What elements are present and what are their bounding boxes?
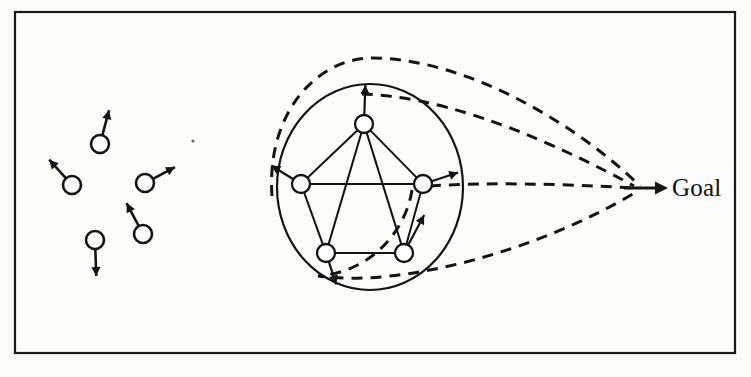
formation-control-figure: Goal [0,0,751,377]
speck-group [191,139,194,142]
node-right-body [414,175,432,193]
agent-5-body [86,231,104,249]
outer-border [15,12,735,353]
node-left-body [292,175,310,193]
goal-label: Goal [672,174,721,202]
dust-speck [191,139,194,142]
figure-canvas [0,0,751,377]
agent-4-body [134,225,152,243]
node-bottom-left-body [317,244,335,262]
node-bottom-right-body [395,244,413,262]
agent-1-body [91,135,109,153]
agent-3-body [136,174,154,192]
agent-2-body [63,176,81,194]
node-top-body [355,115,373,133]
